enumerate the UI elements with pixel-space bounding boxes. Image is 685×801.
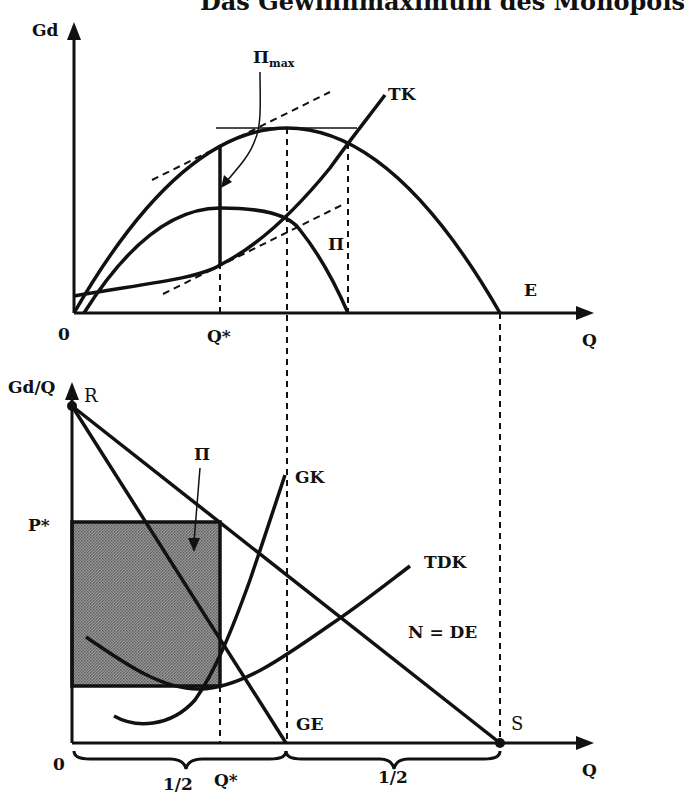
upper-x-axis	[74, 306, 594, 320]
average-cost-label: TDK	[424, 552, 467, 572]
marginal-cost-label: GK	[295, 467, 326, 487]
point-s-label: S	[511, 713, 523, 734]
lower-x-axis-label: Q	[582, 760, 597, 780]
point-s	[495, 738, 505, 748]
upper-y-axis-label: Gd	[32, 20, 59, 40]
point-r-label: R	[84, 385, 98, 406]
left-half-brace	[74, 751, 286, 769]
profit-max-pointer	[226, 72, 260, 182]
lower-chart: Gd/Q R P* Π GK TDK N = DE GE S 0 1/2 Q* …	[8, 377, 597, 794]
arrow-right-icon	[576, 306, 594, 320]
profit-max-label: Πmax	[253, 47, 295, 70]
arrow-up-icon	[67, 22, 81, 40]
upper-y-axis	[67, 22, 81, 313]
marginal-revenue-label: GE	[296, 714, 324, 734]
revenue-label-e: E	[524, 280, 537, 300]
right-half-label: 1/2	[378, 767, 408, 787]
lower-origin-label: 0	[53, 754, 65, 774]
price-label: P*	[28, 515, 50, 535]
arrow-up-icon	[65, 382, 79, 400]
point-r	[67, 401, 77, 411]
profit-curve	[84, 208, 348, 313]
upper-x-axis-label: Q	[582, 330, 597, 350]
lower-y-axis-label: Gd/Q	[8, 377, 56, 397]
left-half-label: 1/2	[163, 774, 193, 794]
lower-x-axis	[72, 736, 594, 750]
profit-label: Π	[328, 234, 344, 254]
total-cost-label-tk: TK	[388, 84, 417, 104]
profit-area-label: Π	[194, 444, 210, 464]
upper-q-star-label: Q*	[207, 326, 231, 346]
demand-label: N = DE	[408, 622, 477, 642]
upper-origin-label: 0	[58, 324, 70, 344]
arrow-right-icon	[576, 736, 594, 750]
lower-q-star-label: Q*	[214, 770, 238, 790]
